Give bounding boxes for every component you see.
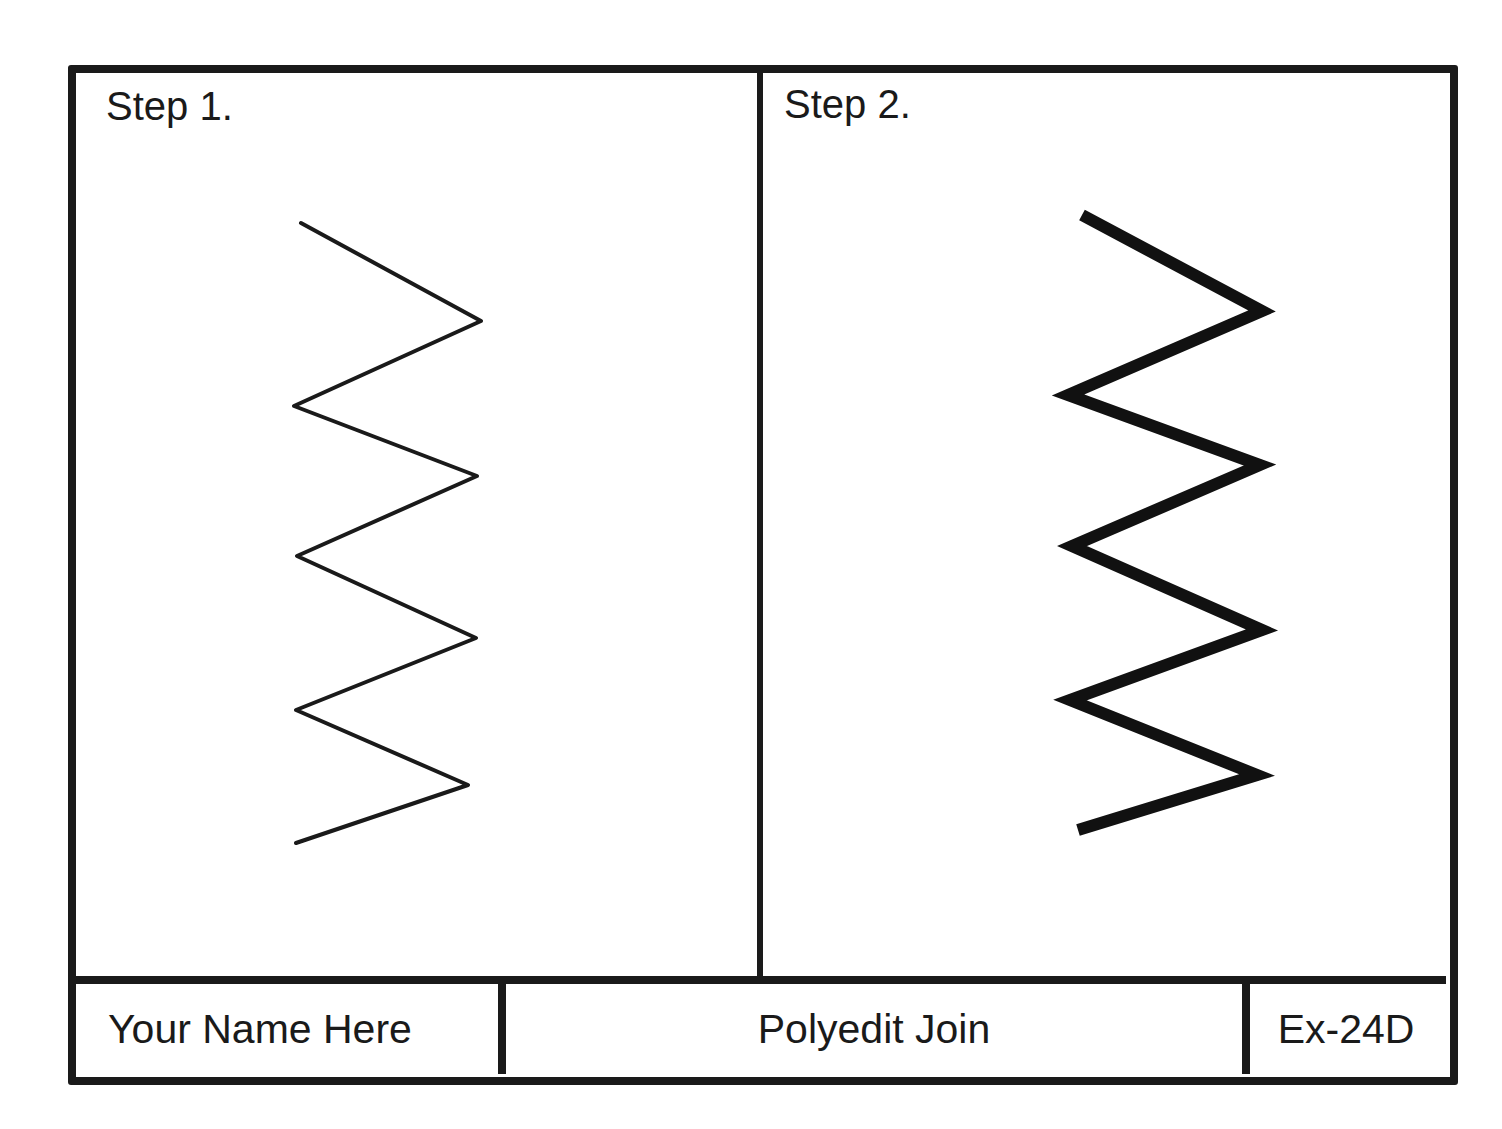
exercise-id-text: Ex-24D: [1278, 1006, 1415, 1053]
title-text: Polyedit Join: [758, 1006, 990, 1053]
title-block-exercise: Ex-24D: [1250, 984, 1442, 1074]
title-block-title: Polyedit Join: [506, 984, 1242, 1074]
zigzag-drawings: [0, 0, 1502, 1129]
step-1-zigzag-polyline: [294, 223, 481, 843]
name-text: Your Name Here: [108, 1006, 412, 1053]
title-block-name: Your Name Here: [108, 984, 498, 1074]
step-2-zigzag-polyline-joined: [1068, 215, 1262, 830]
